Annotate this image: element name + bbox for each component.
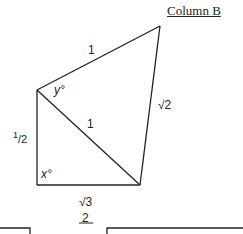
- label-bottom-num: √3: [79, 195, 92, 209]
- label-angle-y: y°: [54, 83, 65, 97]
- label-right-edge: √2: [158, 98, 171, 112]
- top-edge: [37, 26, 160, 90]
- answer-box-a-border: [0, 228, 30, 234]
- diagonal-edge: [37, 90, 140, 185]
- geometry-figure: [0, 0, 243, 234]
- right-edge: [140, 26, 160, 185]
- label-diagonal: 1: [87, 117, 94, 131]
- label-bottom-den: 2: [82, 211, 89, 225]
- answer-box-b-border: [107, 228, 243, 234]
- label-top-edge: 1: [88, 43, 95, 57]
- label-left-edge: 1/2: [13, 130, 27, 145]
- label-angle-x: x°: [41, 167, 52, 181]
